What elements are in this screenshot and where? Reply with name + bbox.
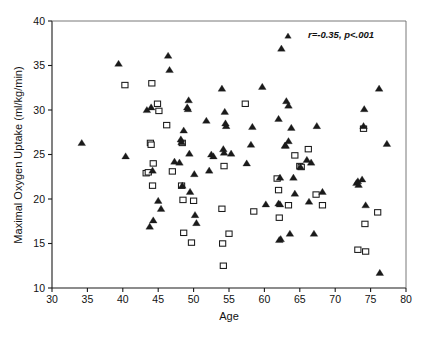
- x-tick-label: 60: [259, 293, 271, 305]
- data-point-square: [305, 146, 311, 151]
- data-point-triangle: [147, 104, 155, 110]
- chart-canvas: 3035404550556065707580 10152025303540 r=…: [0, 0, 426, 337]
- data-point-triangle: [262, 201, 270, 207]
- scatter-plot-figure: 3035404550556065707580 10152025303540 r=…: [0, 0, 426, 337]
- data-point-square: [148, 142, 154, 147]
- data-point-square: [221, 163, 227, 168]
- y-tick-label: 35: [33, 59, 45, 71]
- data-point-triangle: [362, 202, 370, 208]
- data-point-triangle: [247, 141, 255, 147]
- data-point-triangle: [319, 188, 327, 194]
- data-point-square: [276, 215, 282, 220]
- data-point-triangle: [310, 230, 318, 236]
- data-point-square: [164, 122, 170, 127]
- data-point-triangle: [221, 108, 229, 114]
- data-point-triangle: [360, 106, 368, 112]
- data-point-square: [362, 221, 368, 226]
- data-series-open-square: [122, 81, 381, 269]
- data-point-triangle: [166, 66, 174, 72]
- x-tick-label: 80: [400, 293, 412, 305]
- data-point-square: [285, 203, 291, 208]
- data-point-triangle: [191, 211, 199, 217]
- data-point-triangle: [205, 167, 213, 173]
- data-point-triangle: [203, 117, 211, 123]
- data-point-square: [220, 263, 226, 268]
- data-point-square: [188, 240, 194, 245]
- data-point-square: [156, 108, 162, 113]
- data-point-triangle: [286, 230, 294, 236]
- y-tick-label: 30: [33, 104, 45, 116]
- data-point-triangle: [375, 85, 383, 91]
- data-point-square: [313, 192, 319, 197]
- x-tick-label: 50: [188, 293, 200, 305]
- data-point-square: [154, 101, 160, 106]
- data-point-square: [375, 210, 381, 215]
- data-point-triangle: [287, 124, 295, 130]
- data-point-square: [122, 82, 128, 87]
- data-point-triangle: [290, 174, 298, 180]
- data-point-triangle: [149, 217, 157, 223]
- data-point-square: [150, 161, 156, 166]
- y-axis-title: Maximal Oxygen Uptake (ml/kg/min): [12, 66, 24, 243]
- data-point-square: [226, 231, 232, 236]
- data-point-triangle: [154, 197, 162, 203]
- data-point-square: [242, 101, 248, 106]
- data-point-square: [220, 241, 226, 246]
- data-point-square: [180, 197, 186, 202]
- data-point-triangle: [249, 123, 257, 129]
- data-point-square: [219, 206, 225, 211]
- data-point-triangle: [313, 122, 321, 128]
- x-tick-label: 55: [223, 293, 235, 305]
- data-point-triangle: [190, 171, 198, 177]
- data-point-triangle: [383, 140, 391, 146]
- data-point-square: [251, 209, 257, 214]
- data-point-triangle: [78, 139, 86, 145]
- x-tick-label: 70: [329, 293, 341, 305]
- data-point-square: [275, 187, 281, 192]
- y-tick-label: 20: [33, 193, 45, 205]
- data-point-triangle: [186, 188, 194, 194]
- data-point-triangle: [291, 190, 299, 196]
- data-point-triangle: [258, 83, 266, 89]
- data-point-triangle: [115, 60, 123, 66]
- data-point-triangle: [376, 269, 384, 275]
- x-tick-label: 45: [152, 293, 164, 305]
- y-tick-label: 10: [33, 282, 45, 294]
- data-point-triangle: [157, 205, 165, 211]
- x-tick-label: 40: [117, 293, 129, 305]
- data-point-square: [181, 230, 187, 235]
- data-point-square: [169, 169, 175, 174]
- correlation-annotation: r=-0.35, p<.001: [285, 29, 374, 40]
- y-tick-label: 15: [33, 237, 45, 249]
- x-tick-label: 30: [46, 293, 58, 305]
- data-point-triangle: [185, 97, 193, 103]
- data-point-triangle: [180, 127, 188, 133]
- data-point-square: [191, 198, 197, 203]
- data-point-triangle: [278, 45, 286, 51]
- data-point-triangle: [227, 150, 235, 156]
- data-point-square: [363, 249, 369, 254]
- data-point-triangle: [358, 176, 366, 182]
- data-point-triangle: [275, 115, 283, 121]
- y-tick-label: 25: [33, 148, 45, 160]
- data-point-square: [292, 153, 298, 158]
- data-point-square: [149, 183, 155, 188]
- y-axis-tick-labels: 10152025303540: [33, 15, 45, 294]
- x-axis-tick-labels: 3035404550556065707580: [46, 293, 412, 305]
- data-point-triangle: [285, 138, 293, 144]
- data-point-triangle: [122, 153, 130, 159]
- data-point-triangle: [164, 52, 172, 58]
- x-axis-ticks: [52, 288, 406, 292]
- y-tick-label: 40: [33, 15, 45, 27]
- data-point-triangle: [218, 85, 226, 91]
- data-point-triangle: [243, 160, 251, 166]
- data-series-filled-triangle: [78, 45, 391, 275]
- annotation-triangle-icon: [285, 33, 291, 38]
- data-point-square: [355, 247, 361, 252]
- stats-annotation-label: r=-0.35, p<.001: [308, 29, 374, 40]
- x-tick-label: 35: [82, 293, 94, 305]
- data-point-triangle: [186, 150, 194, 156]
- y-axis-ticks: [48, 21, 52, 288]
- data-point-triangle: [146, 223, 154, 229]
- data-point-square: [149, 81, 155, 86]
